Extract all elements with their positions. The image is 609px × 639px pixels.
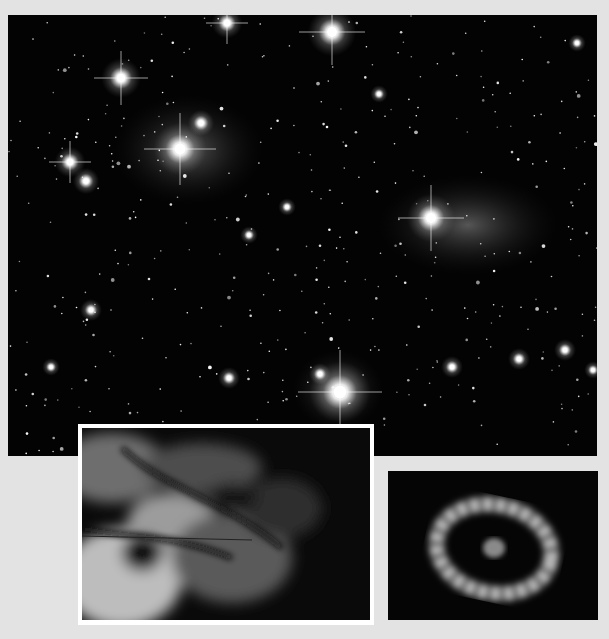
nebula-image [82, 428, 370, 620]
star-cluster-photo [8, 15, 597, 456]
nebula-inset-photo [78, 424, 374, 625]
ring-nebula-photo [388, 471, 598, 620]
star-cluster-image [8, 15, 597, 456]
ring-nebula-image [388, 471, 598, 620]
